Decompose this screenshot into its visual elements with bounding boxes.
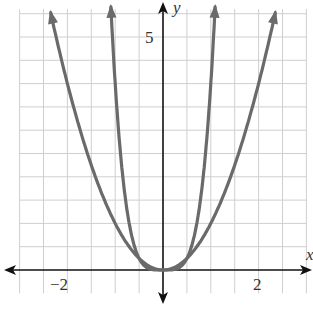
plot-area [0,0,313,320]
y-tick-5: 5 [145,29,154,46]
y-axis-label: y [173,0,181,16]
x-tick-neg2: −2 [50,276,68,293]
x-axis-label: x [306,246,313,263]
x-tick-2: 2 [253,276,262,293]
